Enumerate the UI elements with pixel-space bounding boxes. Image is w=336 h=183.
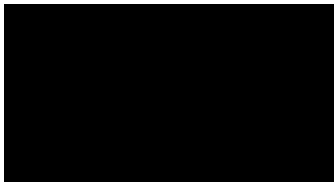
grid-plate — [4, 4, 334, 182]
image-canvas — [0, 0, 336, 183]
grid-cell — [290, 127, 335, 183]
